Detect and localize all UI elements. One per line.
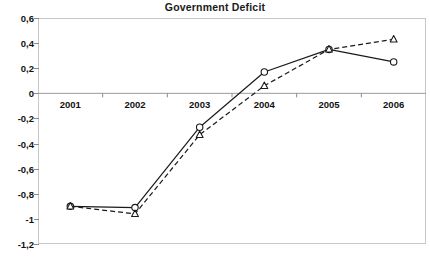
y-axis-tick-label: -0,2 <box>18 113 34 124</box>
y-axis-labels: 0,60,40,20-0,2-0,4-0,6-0,8-1-1,2 <box>0 18 34 244</box>
chart-container: Government Deficit 0,60,40,20-0,2-0,4-0,… <box>0 0 430 262</box>
data-point-marker-triangle <box>196 131 203 137</box>
series-line-1 <box>70 49 393 207</box>
data-point-marker-circle <box>261 69 267 75</box>
y-axis-tick-label: -1,2 <box>18 239 34 250</box>
y-axis-tick-label: 0,2 <box>21 63 34 74</box>
data-point-marker-triangle <box>261 82 268 88</box>
data-point-marker-triangle <box>390 36 397 42</box>
y-axis-tick-label: 0,6 <box>21 13 34 24</box>
y-axis-tick-label: -0,8 <box>18 188 34 199</box>
data-point-marker-circle <box>196 124 202 130</box>
plot-svg <box>38 18 426 244</box>
y-axis-tick-label: -1 <box>26 213 34 224</box>
y-axis-tick-mark <box>34 244 39 245</box>
chart-title: Government Deficit <box>0 1 430 13</box>
series-line-2 <box>70 39 393 214</box>
y-axis-tick-label: -0,6 <box>18 163 34 174</box>
y-axis-tick-label: -0,4 <box>18 138 34 149</box>
data-point-marker-circle <box>390 59 396 65</box>
y-axis-tick-label: 0,4 <box>21 38 34 49</box>
